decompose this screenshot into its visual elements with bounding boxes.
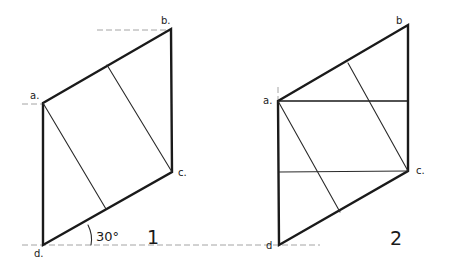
angle-arc: [88, 225, 92, 245]
angle-label: 30°: [96, 229, 119, 244]
perp-line-2b: [348, 63, 408, 171]
figure-number-1: 1: [147, 226, 159, 248]
figure-1: 30° a. b. c. d. 1: [22, 15, 228, 259]
perp-line-2a: [278, 101, 340, 212]
perp-line-1a: [43, 103, 106, 209]
vertex-b-label: b.: [161, 15, 171, 26]
vertex-c-label: c.: [416, 165, 425, 176]
perp-line-1b: [107, 65, 172, 172]
figure-number-2: 2: [390, 227, 402, 249]
figure-2: a. b c. d 2: [228, 15, 425, 251]
vertex-d-label: d.: [34, 248, 44, 259]
vertex-b-label: b: [396, 15, 402, 26]
vertex-a-label: a.: [263, 95, 272, 106]
vertex-d-label: d: [266, 240, 272, 251]
parallelogram-1: [43, 29, 172, 245]
diagram-canvas: 30° a. b. c. d. 1 a. b c. d 2: [0, 0, 456, 266]
vertex-a-label: a.: [30, 90, 39, 101]
vertex-c-label: c.: [178, 167, 187, 178]
horizontal-line-bottom: [279, 171, 408, 172]
